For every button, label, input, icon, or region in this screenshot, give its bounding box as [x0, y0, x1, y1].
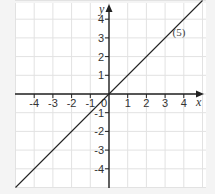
y-tick-label: 2	[98, 51, 104, 63]
x-tick-label: -3	[48, 97, 58, 109]
y-tick-label: 3	[98, 32, 104, 44]
x-tick-label: 3	[162, 97, 168, 109]
y-tick-label: 1	[98, 69, 104, 81]
x-tick-label: 2	[143, 97, 149, 109]
x-tick-label: 4	[181, 97, 187, 109]
y-tick-label: -4	[94, 163, 104, 175]
x-axis-label: x	[195, 95, 202, 109]
y-tick-label: -2	[94, 125, 104, 137]
series-label: (5)	[173, 26, 186, 39]
line-chart: -4-3-2-1012344321-1-2-3-4 y x (5)	[0, 0, 215, 194]
x-tick-label: -4	[29, 97, 39, 109]
y-tick-label: -1	[94, 107, 104, 119]
y-tick-label: -3	[94, 144, 104, 156]
y-axis-label: y	[98, 2, 105, 16]
x-tick-label: 1	[125, 97, 131, 109]
x-tick-label: -2	[67, 97, 77, 109]
y-axis-arrow-icon	[106, 4, 113, 12]
